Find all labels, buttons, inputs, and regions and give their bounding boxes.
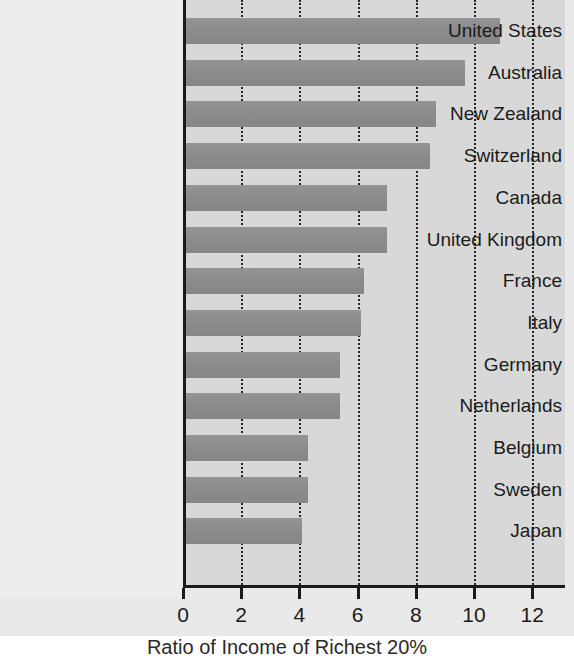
x-tick-mark	[240, 588, 243, 599]
x-tick-mark	[182, 588, 185, 599]
category-label: Netherlands	[392, 395, 562, 417]
category-label: Japan	[392, 520, 562, 542]
category-label: Sweden	[392, 479, 562, 501]
bar	[186, 310, 361, 336]
category-label-gutter	[0, 0, 183, 598]
chart-screenshot: United StatesAustraliaNew ZealandSwitzer…	[0, 0, 574, 658]
category-label: Australia	[392, 62, 562, 84]
category-label: Switzerland	[392, 145, 562, 167]
category-label: United Kingdom	[392, 229, 562, 251]
bar	[186, 227, 387, 253]
bar	[186, 477, 308, 503]
category-label: Germany	[392, 354, 562, 376]
x-tick-label: 8	[396, 603, 436, 627]
bar	[186, 352, 340, 378]
category-label: Italy	[392, 312, 562, 334]
x-tick-label: 4	[279, 603, 319, 627]
category-label: United States	[392, 20, 562, 42]
x-tick-label: 10	[454, 603, 494, 627]
bar	[186, 268, 364, 294]
x-tick-mark	[531, 588, 534, 599]
x-tick-mark	[298, 588, 301, 599]
category-label: Belgium	[392, 437, 562, 459]
x-tick-label: 2	[221, 603, 261, 627]
bar	[186, 518, 302, 544]
category-label: Canada	[392, 187, 562, 209]
x-tick-mark	[473, 588, 476, 599]
x-axis-title: Ratio of Income of Richest 20%	[0, 636, 574, 658]
category-label: New Zealand	[392, 103, 562, 125]
bar	[186, 435, 308, 461]
x-tick-label: 12	[512, 603, 552, 627]
x-tick-label: 6	[338, 603, 378, 627]
x-tick-label: 0	[163, 603, 203, 627]
category-label: France	[392, 270, 562, 292]
bar	[186, 393, 340, 419]
bar	[186, 185, 387, 211]
x-tick-mark	[357, 588, 360, 599]
x-tick-mark	[415, 588, 418, 599]
